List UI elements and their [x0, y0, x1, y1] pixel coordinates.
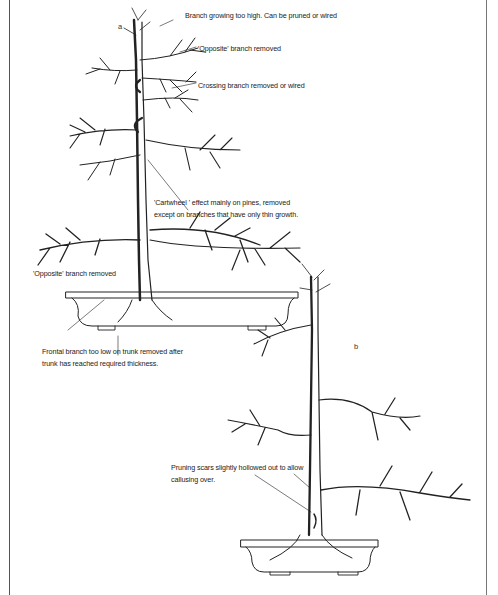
annotation-pruning-line2: callusing over.: [171, 474, 215, 486]
annotation-opposite-removed-low: 'Opposite' branch removed: [33, 268, 116, 280]
annotation-frontal-line2: trunk has reached required thickness.: [42, 358, 158, 370]
annotation-opposite-removed-top: 'Opposite' branch removed: [198, 43, 281, 55]
tree-a: [38, 8, 300, 330]
annotation-crossing-removed: Crossing branch removed or wired: [198, 80, 305, 92]
annotation-pruning-line1: Pruning scars slightly hollowed out to a…: [171, 462, 303, 474]
annotation-frontal-line1: Frontal branch too low on trunk removed …: [42, 346, 183, 358]
leader-lines-b: [255, 474, 311, 512]
annotation-branch-too-high: Branch growing too high. Can be pruned o…: [185, 10, 337, 22]
annotation-cartwheel-line2: except on branches that have only thin g…: [154, 209, 298, 221]
annotation-cartwheel-line1: 'Cartwheel ' effect mainly on pines, rem…: [154, 197, 290, 209]
figure-b-label: b: [354, 342, 358, 351]
figure-a-label: a: [118, 22, 122, 31]
tree-b: [228, 264, 470, 575]
